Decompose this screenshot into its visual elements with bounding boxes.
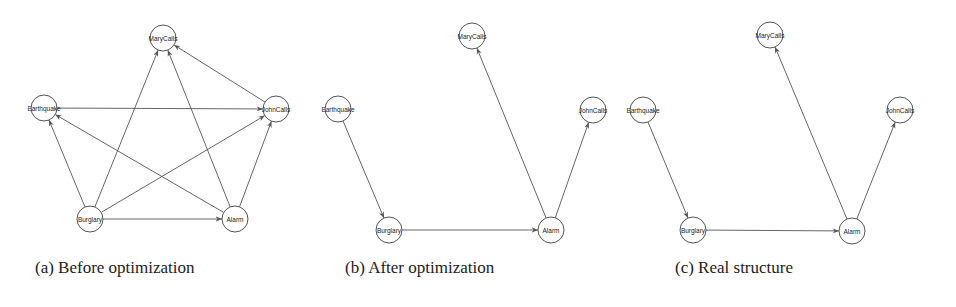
- node-marycalls: MaryCalls: [756, 22, 786, 48]
- node-label: Alarm: [543, 227, 560, 234]
- bayesian-network-figure: MaryCallsEarthquakeJohnCallsBurglaryAlar…: [0, 0, 956, 307]
- edge-alarm-to-johncalls: [555, 122, 588, 217]
- edge-burglary-to-earthquake: [49, 120, 85, 207]
- node-marycalls: MaryCalls: [149, 25, 179, 51]
- edge-earthquake-to-johncalls: [57, 108, 263, 109]
- edge-burglary-to-marycalls: [95, 50, 158, 207]
- panel-c-graph: MaryCallsEarthquakeJohnCallsBurglaryAlar…: [626, 22, 915, 244]
- caption-after-optimization: (b) After optimization: [345, 258, 494, 278]
- edge-alarm-to-marycalls: [168, 50, 230, 207]
- node-label: Earthquake: [27, 105, 61, 113]
- node-label: Burglary: [78, 216, 103, 224]
- node-earthquake: Earthquake: [626, 97, 660, 123]
- node-johncalls: JohnCalls: [886, 97, 915, 123]
- node-burglary: Burglary: [77, 206, 103, 232]
- edge-alarm-to-johncalls: [857, 122, 895, 219]
- node-burglary: Burglary: [680, 217, 706, 243]
- node-johncalls: JohnCalls: [579, 97, 608, 123]
- edge-burglary-to-alarm: [706, 230, 839, 231]
- node-label: JohnCalls: [886, 107, 915, 114]
- node-alarm: Alarm: [538, 217, 564, 243]
- node-label: MaryCalls: [149, 35, 179, 43]
- panel-b-graph: MaryCallsEarthquakeJohnCallsBurglaryAlar…: [321, 23, 608, 243]
- edge-alarm-to-marycalls: [775, 47, 847, 219]
- node-label: MaryCalls: [458, 33, 488, 41]
- edge-alarm-to-marycalls: [477, 48, 546, 218]
- node-label: JohnCalls: [262, 106, 291, 113]
- edge-earthquake-to-burglary: [343, 121, 384, 218]
- node-label: Earthquake: [626, 107, 660, 115]
- panel-a-graph: MaryCallsEarthquakeJohnCallsBurglaryAlar…: [27, 25, 291, 232]
- node-johncalls: JohnCalls: [262, 96, 291, 122]
- edge-earthquake-to-burglary: [648, 122, 688, 218]
- edge-alarm-to-johncalls: [240, 121, 272, 207]
- node-earthquake: Earthquake: [27, 95, 61, 121]
- node-label: MaryCalls: [756, 32, 786, 40]
- node-label: Alarm: [227, 216, 244, 223]
- node-alarm: Alarm: [839, 218, 865, 244]
- node-marycalls: MaryCalls: [458, 23, 488, 49]
- node-label: Burglary: [377, 227, 402, 235]
- caption-before-optimization: (a) Before optimization: [35, 258, 195, 278]
- node-label: Burglary: [681, 227, 706, 235]
- edge-alarm-to-earthquake: [55, 115, 224, 213]
- node-label: JohnCalls: [579, 107, 608, 114]
- node-label: Earthquake: [321, 106, 355, 114]
- node-earthquake: Earthquake: [321, 96, 355, 122]
- caption-real-structure: (c) Real structure: [675, 258, 793, 278]
- edge-johncalls-to-marycalls: [174, 45, 265, 102]
- node-alarm: Alarm: [222, 206, 248, 232]
- node-label: Alarm: [844, 228, 861, 235]
- node-burglary: Burglary: [376, 217, 402, 243]
